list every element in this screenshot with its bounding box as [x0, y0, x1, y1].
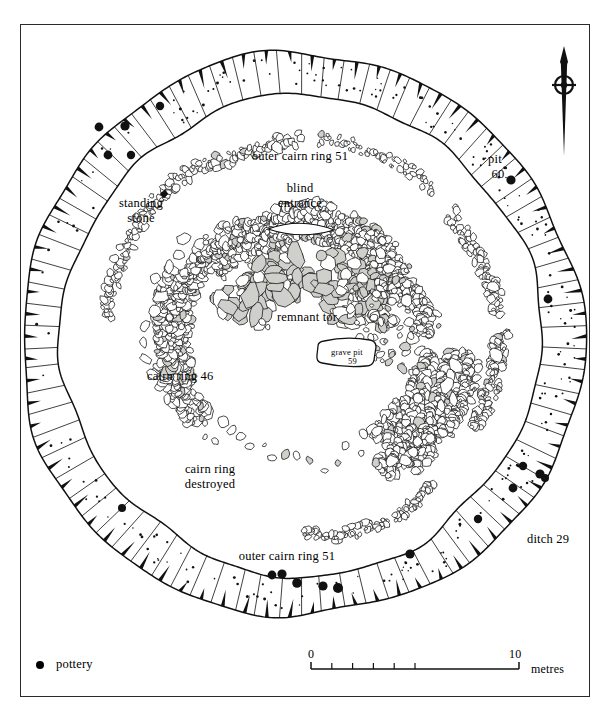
label-blind-entrance-2: entrance	[278, 196, 322, 210]
legend-pottery-label: pottery	[56, 657, 93, 671]
scale-bar	[311, 662, 519, 669]
label-cairn-ring-destroyed-2: destroyed	[185, 477, 235, 491]
scalebar-max-label: 10	[509, 648, 521, 661]
label-grave-pit-2: 59	[348, 357, 357, 367]
label-cairn-ring-destroyed-1: cairn ring	[185, 462, 235, 476]
scalebar-unit-label: metres	[531, 663, 564, 676]
label-outer-cairn-ring-top: outer cairn ring 51	[252, 149, 348, 163]
label-standing-stone-1: standing	[119, 196, 163, 210]
label-pit-1: pit	[488, 152, 502, 166]
label-outer-cairn-ring-bottom: outer cairn ring 51	[239, 549, 335, 563]
legend-pottery-symbol	[36, 661, 44, 669]
label-blind-entrance-1: blind	[287, 181, 314, 195]
site-plan-figure: outer cairn ring 51 blind entrance stand…	[0, 0, 610, 722]
label-ditch-29: ditch 29	[527, 532, 569, 546]
plan-drawing	[0, 0, 610, 722]
label-grave-pit-1: grave pit	[331, 348, 363, 358]
label-cairn-ring-46: cairn ring 46	[147, 369, 213, 383]
label-remnant-tor: remnant tor	[277, 310, 337, 324]
scalebar-min-label: 0	[308, 648, 314, 661]
label-pit-2: 60	[492, 167, 505, 181]
label-standing-stone-2: stone	[127, 211, 154, 225]
north-arrow-icon	[552, 46, 576, 156]
